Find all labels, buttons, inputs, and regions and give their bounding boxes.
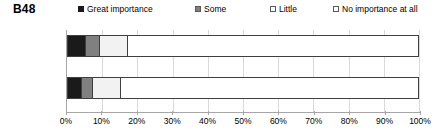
- x-tick-label: 0%: [60, 115, 72, 127]
- x-tick-label: 30%: [164, 115, 181, 127]
- bar-segment[interactable]: [68, 36, 86, 56]
- legend-item[interactable]: Great importance: [78, 3, 153, 15]
- legend-swatch-icon: [78, 6, 84, 12]
- legend-swatch-icon: [195, 6, 201, 12]
- legend-label: Some: [204, 3, 226, 15]
- bar-segment[interactable]: [82, 78, 93, 98]
- stacked-bar[interactable]: [67, 77, 419, 99]
- x-tick-label: 90%: [376, 115, 393, 127]
- bar-segment[interactable]: [93, 78, 121, 98]
- legend-label: Great importance: [87, 3, 153, 15]
- bar-row: Montpellier(N=308): [67, 35, 419, 57]
- chart-title: B48: [13, 2, 36, 16]
- bar-segment[interactable]: [100, 36, 128, 56]
- legend-item[interactable]: Some: [195, 3, 226, 15]
- x-tick-label: 80%: [341, 115, 358, 127]
- x-tick-label: 60%: [270, 115, 287, 127]
- legend-swatch-icon: [270, 6, 276, 12]
- bar-segment[interactable]: [68, 78, 82, 98]
- x-tick-label: 100%: [409, 115, 431, 127]
- stacked-bar[interactable]: [67, 35, 419, 57]
- bar-segment[interactable]: [128, 36, 419, 56]
- chart-container: B48 Great importanceSomeLittleNo importa…: [0, 0, 445, 140]
- plot-area: Montpellier(N=308)Lyon(N=424): [66, 30, 420, 113]
- legend-swatch-icon: [333, 6, 339, 12]
- legend-item[interactable]: Little: [270, 3, 297, 15]
- legend-label: Little: [279, 3, 297, 15]
- x-tick-label: 40%: [199, 115, 216, 127]
- x-tick-label: 70%: [305, 115, 322, 127]
- x-tick-label: 20%: [128, 115, 145, 127]
- x-tick-label: 50%: [234, 115, 251, 127]
- legend-item[interactable]: No importance at all: [333, 3, 418, 15]
- bar-segment[interactable]: [86, 36, 100, 56]
- x-tick-label: 10%: [93, 115, 110, 127]
- legend-label: No importance at all: [342, 3, 418, 15]
- chart-legend: Great importanceSomeLittleNo importance …: [78, 3, 438, 19]
- bar-segment[interactable]: [121, 78, 419, 98]
- x-axis-tick-labels: 0%10%20%30%40%50%60%70%80%90%100%: [0, 115, 445, 131]
- bar-row: Lyon(N=424): [67, 77, 419, 99]
